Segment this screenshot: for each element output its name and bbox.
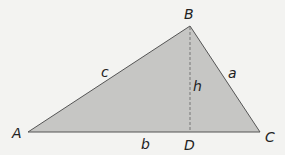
side-label-b: b: [141, 136, 150, 152]
triangle-diagram: A B C D c a b h: [0, 0, 285, 155]
side-label-a: a: [228, 65, 237, 81]
altitude-label-h: h: [193, 78, 202, 94]
diagram-canvas: A B C D c a b h: [0, 0, 285, 155]
vertex-label-b-point: B: [184, 6, 194, 22]
triangle-abc: [28, 26, 260, 132]
vertex-label-a-point: A: [11, 125, 22, 141]
vertex-label-d-point: D: [184, 137, 195, 153]
side-label-c: c: [101, 64, 109, 80]
vertex-label-c-point: C: [265, 129, 275, 145]
